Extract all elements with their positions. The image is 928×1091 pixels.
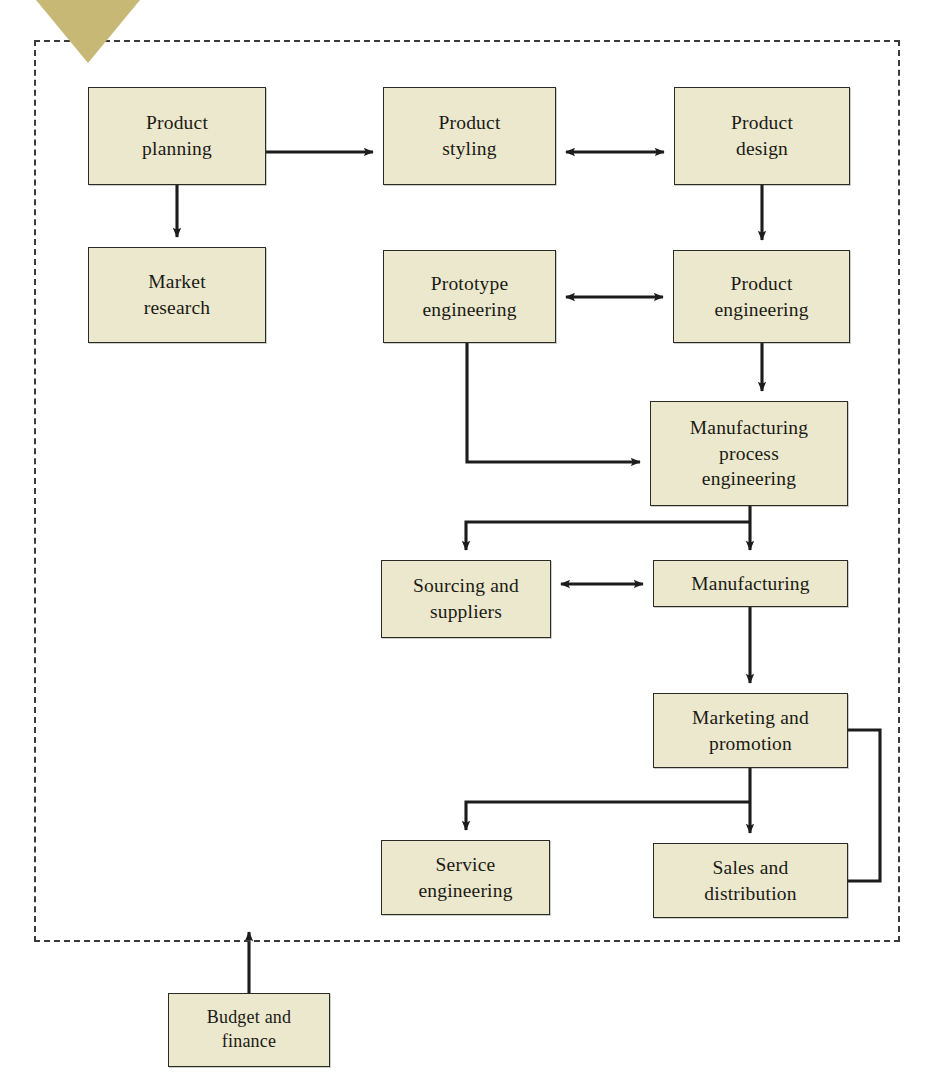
node-sales-and-distribution[interactable]: Sales anddistribution — [653, 843, 848, 918]
node-product-styling-label: Productstyling — [432, 110, 506, 161]
node-manufacturing[interactable]: Manufacturing — [653, 560, 848, 607]
node-manufacturing-label: Manufacturing — [685, 571, 815, 597]
node-product-design-label: Productdesign — [725, 110, 799, 161]
node-budget-and-finance[interactable]: Budget andfinance — [168, 993, 330, 1067]
node-product-engineering[interactable]: Productengineering — [673, 250, 850, 343]
corner-marker-triangle-icon — [36, 0, 140, 63]
node-manufacturing-process-engineering[interactable]: Manufacturingprocessengineering — [650, 401, 848, 506]
node-service-engineering-label: Serviceengineering — [412, 852, 518, 903]
node-sourcing-and-suppliers-label: Sourcing andsuppliers — [407, 573, 525, 624]
node-prototype-engineering[interactable]: Prototypeengineering — [383, 250, 556, 343]
node-product-planning[interactable]: Productplanning — [88, 87, 266, 185]
node-product-planning-label: Productplanning — [136, 110, 218, 161]
node-marketing-and-promotion[interactable]: Marketing andpromotion — [653, 693, 848, 768]
diagram-canvas: Productplanning Productstyling Productde… — [0, 0, 928, 1091]
node-sales-and-distribution-label: Sales anddistribution — [698, 855, 802, 906]
node-market-research[interactable]: Marketresearch — [88, 247, 266, 343]
node-product-styling[interactable]: Productstyling — [383, 87, 556, 185]
node-market-research-label: Marketresearch — [138, 269, 217, 320]
node-service-engineering[interactable]: Serviceengineering — [381, 840, 550, 915]
node-budget-and-finance-label: Budget andfinance — [201, 1006, 298, 1054]
node-manufacturing-process-engineering-label: Manufacturingprocessengineering — [684, 415, 814, 492]
node-marketing-and-promotion-label: Marketing andpromotion — [686, 705, 815, 756]
node-product-design[interactable]: Productdesign — [674, 87, 850, 185]
node-sourcing-and-suppliers[interactable]: Sourcing andsuppliers — [381, 560, 551, 638]
node-prototype-engineering-label: Prototypeengineering — [416, 271, 522, 322]
node-product-engineering-label: Productengineering — [708, 271, 814, 322]
